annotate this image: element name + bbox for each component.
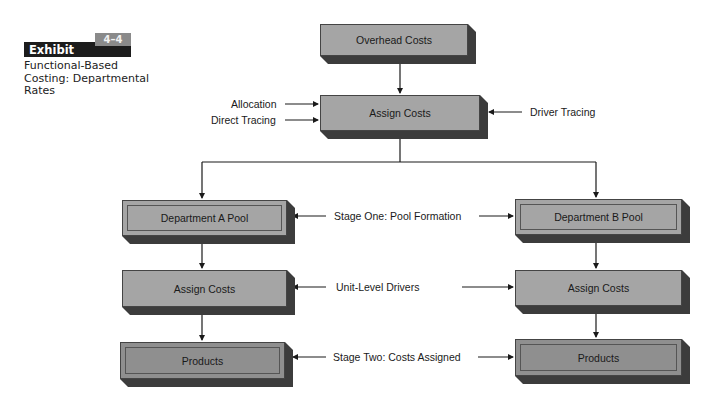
assign-costs-b-node: Assign Costs — [515, 270, 690, 314]
department-a-pool-label: Department A Pool — [161, 212, 249, 224]
driver-tracing-label: Driver Tracing — [530, 106, 595, 118]
department-b-pool-node: Department B Pool — [515, 199, 690, 243]
unit-level-drivers-label: Unit-Level Drivers — [336, 281, 419, 293]
direct-tracing-label: Direct Tracing — [211, 114, 276, 126]
stage-two-label: Stage Two: Costs Assigned — [333, 351, 461, 363]
assign-costs-top-label: Assign Costs — [369, 107, 430, 119]
stage-one-label: Stage One: Pool Formation — [334, 210, 461, 222]
assign-costs-top-node: Assign Costs — [320, 95, 488, 139]
assign-costs-b-label: Assign Costs — [568, 282, 629, 294]
products-b-node: Products — [515, 339, 690, 384]
products-a-label: Products — [182, 355, 223, 367]
department-b-pool-label: Department B Pool — [554, 211, 643, 223]
products-b-label: Products — [578, 352, 619, 364]
department-a-pool-node: Department A Pool — [122, 200, 295, 244]
assign-costs-a-node: Assign Costs — [122, 270, 295, 315]
products-a-node: Products — [120, 342, 293, 387]
overhead-costs-node: Overhead Costs — [320, 24, 476, 64]
overhead-costs-label: Overhead Costs — [356, 34, 432, 46]
assign-costs-a-label: Assign Costs — [174, 283, 235, 295]
allocation-label: Allocation — [231, 98, 277, 110]
